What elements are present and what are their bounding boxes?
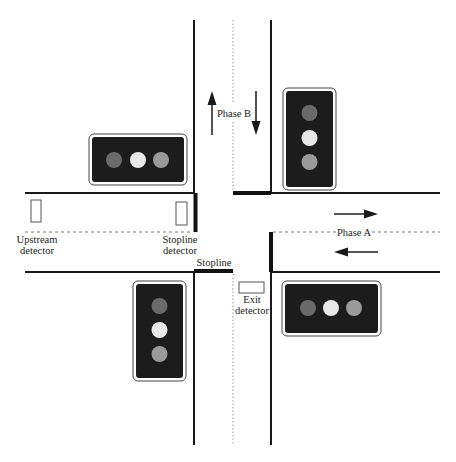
phase-a-westbound-arrow	[334, 248, 378, 257]
stopline-detector-label-line1: Stopline	[162, 234, 197, 245]
traffic-signal-southwest	[133, 281, 186, 381]
arrow-down-icon	[252, 121, 261, 135]
signal-lamp-lit	[323, 300, 339, 316]
upstream-detector-label-line1: Upstream	[17, 234, 58, 245]
stopline-detector	[176, 202, 187, 225]
signal-lamp-mid	[153, 152, 169, 168]
signal-lamp-mid	[302, 154, 318, 170]
arrow-right-icon	[364, 210, 378, 219]
exit-detector-label-line1: Exit	[243, 294, 261, 305]
phase-b-label: Phase B	[217, 108, 251, 119]
signal-lamp-dim	[300, 300, 316, 316]
phase-b-northbound-arrow	[208, 91, 217, 135]
signal-lamp-mid	[346, 300, 362, 316]
signal-lamp-dim	[106, 152, 122, 168]
intersection-diagram: Upstream detector Stopline detector Stop…	[0, 0, 456, 462]
lane-dividers	[25, 20, 440, 445]
traffic-signal-southeast	[282, 281, 381, 336]
signal-lamp-lit	[130, 152, 146, 168]
arrow-left-icon	[334, 248, 348, 257]
phase-a-label: Phase A	[337, 227, 372, 238]
upstream-detector-label-line2: detector	[20, 245, 54, 256]
upstream-detector	[31, 200, 41, 222]
signal-lamp-dim	[152, 298, 168, 314]
stopline-label: Stopline	[196, 257, 231, 268]
signal-lamp-lit	[152, 322, 168, 338]
signal-lamp-dim	[302, 105, 318, 121]
exit-detector-label-line2: detector	[235, 305, 269, 316]
phase-a-eastbound-arrow	[334, 210, 378, 219]
traffic-signal-northeast	[283, 88, 336, 190]
signal-lamp-lit	[302, 130, 318, 146]
traffic-signal-northwest	[89, 134, 187, 185]
exit-detector	[239, 282, 264, 293]
signal-lamp-mid	[152, 346, 168, 362]
phase-b-southbound-arrow	[252, 91, 261, 135]
arrow-up-icon	[208, 91, 217, 105]
stopline-detector-label-line2: detector	[163, 245, 197, 256]
